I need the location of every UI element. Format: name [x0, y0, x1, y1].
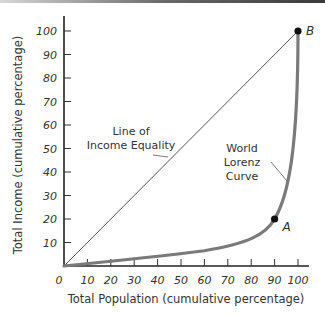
origin-label: 0 — [56, 274, 63, 287]
x-tick-label: 40 — [151, 274, 165, 287]
x-axis-ticks: 102030405060708090100 — [80, 259, 308, 287]
point-label-b: B — [306, 24, 314, 38]
y-tick-label: 90 — [43, 49, 57, 62]
x-tick-label: 80 — [244, 274, 258, 287]
y-axis-ticks: 102030405060708090100 — [36, 25, 71, 250]
chart-points: AB — [271, 24, 314, 234]
lorenz-leader — [271, 162, 287, 181]
y-tick-label: 100 — [36, 25, 57, 38]
x-tick-label: 100 — [288, 274, 309, 287]
y-axis-title: Total Income (cumulative percentage) — [11, 36, 25, 256]
x-tick-label: 60 — [197, 274, 211, 287]
x-tick-label: 10 — [80, 274, 94, 287]
equality-leader — [153, 155, 168, 157]
x-tick-label: 70 — [221, 274, 235, 287]
y-tick-label: 80 — [43, 72, 57, 85]
point-label-a: A — [282, 220, 291, 234]
x-tick-label: 20 — [104, 274, 118, 287]
lorenz-label: Lorenz — [224, 156, 261, 169]
y-tick-label: 50 — [43, 143, 57, 156]
x-tick-label: 50 — [174, 274, 188, 287]
x-tick-label: 30 — [127, 274, 141, 287]
x-tick-label: 90 — [268, 274, 282, 287]
point-b — [294, 27, 301, 34]
chart-annotations: Line ofIncome EqualityWorldLorenzCurve — [87, 125, 287, 183]
lorenz-label: World — [226, 142, 258, 155]
equality-label: Income Equality — [87, 139, 176, 152]
lorenz-chart: 102030405060708090100 102030405060708090… — [0, 0, 325, 316]
point-a — [271, 215, 278, 222]
y-tick-label: 10 — [43, 237, 57, 250]
equality-label: Line of — [112, 125, 150, 138]
y-tick-label: 60 — [43, 119, 57, 132]
y-tick-label: 40 — [43, 166, 57, 179]
y-tick-label: 20 — [43, 213, 57, 226]
y-tick-label: 70 — [43, 96, 57, 109]
x-axis-title: Total Population (cumulative percentage) — [67, 292, 305, 306]
lorenz-label: Curve — [226, 170, 259, 183]
y-tick-label: 30 — [43, 190, 57, 203]
